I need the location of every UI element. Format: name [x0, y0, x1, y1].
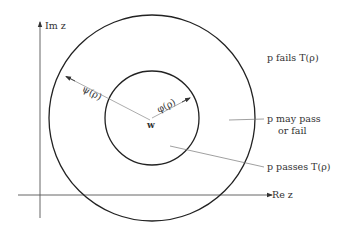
real-axis-label: Re z [272, 189, 293, 200]
region-annulus-label-line2: or fail [278, 125, 307, 136]
outer-radius-line [67, 77, 150, 120]
outer-radius-arrow [66, 77, 75, 82]
annulus-leader-line [229, 119, 264, 120]
complex-plane-diagram: Im z Re z ψ(ρ) φ(ρ) w p fails T(ρ) p may… [0, 0, 351, 232]
center-label: w [146, 120, 155, 130]
region-inner-label: p passes T(ρ) [267, 161, 330, 172]
region-outside-label: p fails T(ρ) [267, 52, 319, 63]
imaginary-axis-label: Im z [45, 20, 66, 31]
region-annulus-label-line1: p may pass [267, 113, 321, 124]
inner-radius-arrow [182, 98, 190, 102]
inner-radius-label: φ(ρ) [155, 96, 178, 115]
outer-radius-label: ψ(ρ) [81, 83, 104, 102]
